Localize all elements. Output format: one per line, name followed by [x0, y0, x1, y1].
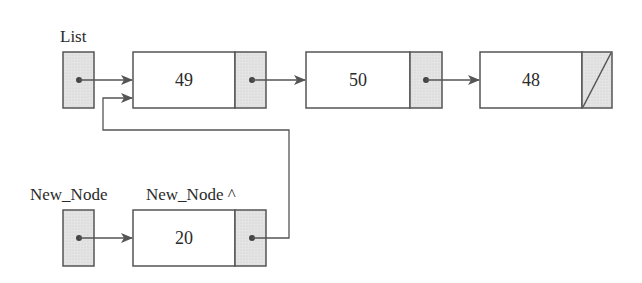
- list-label: List: [60, 27, 87, 46]
- node-value: 49: [175, 70, 193, 90]
- node-value: 50: [349, 70, 367, 90]
- linked-list-diagram: List New_Node New_Node ^ 49 50 48 20: [0, 0, 642, 283]
- node-50: 50: [306, 52, 442, 108]
- node-49: 49: [133, 52, 266, 108]
- node-48: 48: [480, 52, 612, 108]
- new-node-var-label: New_Node: [30, 185, 107, 204]
- new-node-deref-label: New_Node ^: [146, 185, 236, 204]
- node-value: 48: [522, 70, 540, 90]
- node-20: 20: [133, 210, 266, 266]
- node-value: 20: [175, 228, 193, 248]
